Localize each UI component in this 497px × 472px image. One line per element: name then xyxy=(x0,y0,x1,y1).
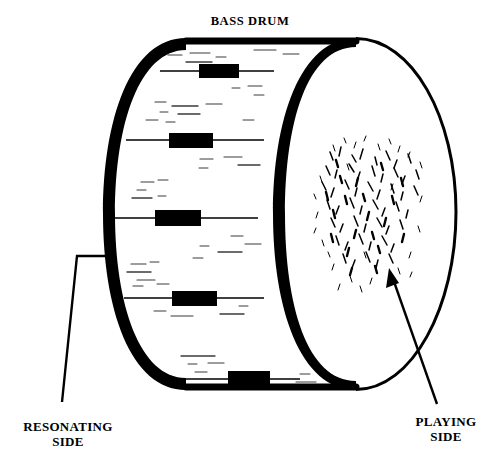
tension-rod-lug-3 xyxy=(155,210,201,226)
tension-rod-lug-2 xyxy=(169,133,213,148)
resonating-side-label-line1: RESONATING xyxy=(23,419,112,434)
page-title: BASS DRUM xyxy=(211,14,290,28)
resonating-side-label-line2: SIDE xyxy=(52,434,84,449)
tension-rod-lug-4 xyxy=(172,291,217,306)
tension-rod-lug-1 xyxy=(199,64,239,78)
tension-rod-lug-5 xyxy=(228,371,270,385)
drum-illustration xyxy=(103,38,456,390)
bass-drum-diagram: BASS DRUM RESONATING SIDE PLAYING SIDE xyxy=(0,0,497,472)
playing-side-label-line1: PLAYING xyxy=(416,414,477,429)
playing-side-label-line2: SIDE xyxy=(430,429,462,444)
